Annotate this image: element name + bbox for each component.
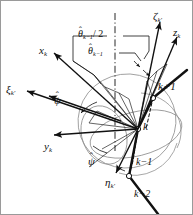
label-zeta-k-prime: ζk′ <box>153 11 162 24</box>
vector-x-k <box>54 53 138 129</box>
label-eta-k-prime: ηk′ <box>105 177 115 190</box>
label-z-k: zk <box>173 27 180 40</box>
label-theta-k-minus-1: ˆθk−1 <box>88 46 103 57</box>
construction-spokes <box>89 64 167 167</box>
label-x-k: xk <box>39 45 47 58</box>
label-psi-upper: ˆψ <box>54 95 61 106</box>
vector-xi-k-prime <box>27 91 138 129</box>
label-theta-k-minus-1-half: ˆθk−1/ 2 <box>78 29 103 40</box>
label-node-k: k <box>143 121 148 132</box>
label-node-k-minus-1: k−1 <box>136 157 152 167</box>
figure-root: ζk′ zk xk ξk′ yk ηk′ ˆθk−1/ 2 ˆθk−1 ˆψ ˆ… <box>0 0 193 215</box>
label-node-k-minus-2: k−2 <box>134 189 150 199</box>
vector-y-k <box>54 129 138 135</box>
fan-bands <box>73 61 167 123</box>
angle-leader-lines <box>73 36 149 75</box>
label-psi-lower: ˆψ <box>88 156 95 167</box>
label-y-k: yk <box>44 141 52 154</box>
label-node-k-plus-1: k+1 <box>158 81 176 92</box>
label-xi-k-prime: ξk′ <box>6 84 15 97</box>
